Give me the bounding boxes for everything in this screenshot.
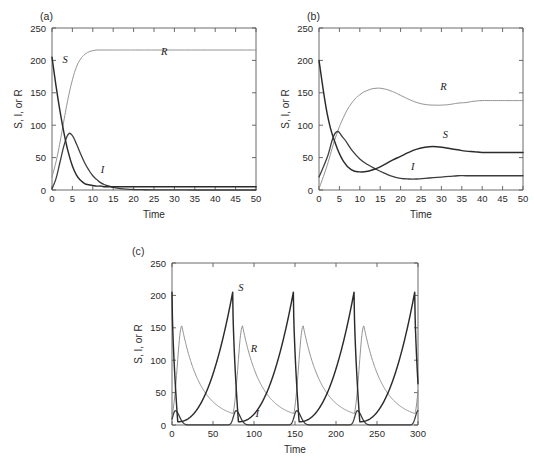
x-axis-title: Time [143, 209, 165, 220]
x-tick-label: 40 [210, 193, 221, 204]
curve-label-R: R [250, 343, 258, 354]
x-tick-label: 40 [477, 193, 488, 204]
x-tick-label: 0 [316, 193, 321, 204]
x-tick-label: 20 [128, 193, 139, 204]
y-tick-label: 100 [150, 355, 166, 366]
x-tick-label: 30 [169, 193, 180, 204]
x-tick-label: 15 [375, 193, 386, 204]
x-tick-label: 20 [395, 193, 406, 204]
x-tick-label: 30 [436, 193, 447, 204]
x-tick-label: 50 [251, 193, 262, 204]
curve-label-S: S [238, 282, 244, 293]
x-tick-label: 5 [70, 193, 75, 204]
x-tick-label: 35 [457, 193, 468, 204]
panel-b-plot: 05101520253035404550050100150200250TimeS… [267, 0, 534, 235]
y-tick-label: 0 [308, 185, 313, 196]
x-tick-label: 300 [410, 428, 426, 439]
curve-label-S: S [62, 54, 68, 65]
panel-b-letter: (b) [307, 10, 320, 22]
y-tick-label: 150 [150, 322, 166, 333]
sir-model-figure: (a) 05101520253035404550050100150200250T… [0, 0, 534, 470]
curve-label-I: I [100, 164, 105, 175]
panel-a-plot: 05101520253035404550050100150200250TimeS… [0, 0, 267, 235]
y-axis-title: S, I, or R [133, 324, 144, 363]
curve-label-I: I [255, 408, 260, 419]
x-axis-title: Time [410, 209, 432, 220]
x-tick-label: 10 [355, 193, 366, 204]
y-tick-label: 200 [297, 55, 313, 66]
x-axis-title: Time [284, 444, 306, 455]
curve-R [319, 88, 523, 189]
y-tick-label: 100 [297, 120, 313, 131]
x-tick-label: 150 [287, 428, 303, 439]
panel-a: (a) 05101520253035404550050100150200250T… [0, 0, 267, 235]
curve-label-I: I [410, 161, 415, 172]
panel-c-plot: 050100150200250300050100150200250TimeS, … [110, 235, 430, 470]
x-tick-label: 5 [337, 193, 342, 204]
x-tick-label: 10 [88, 193, 99, 204]
x-tick-label: 25 [416, 193, 427, 204]
y-tick-label: 0 [161, 420, 166, 431]
x-tick-label: 25 [149, 193, 160, 204]
x-tick-label: 0 [49, 193, 54, 204]
curve-S [52, 57, 256, 187]
y-tick-label: 100 [30, 120, 46, 131]
x-tick-label: 15 [108, 193, 119, 204]
panel-c-letter: (c) [132, 245, 145, 257]
y-tick-label: 250 [30, 23, 46, 34]
y-axis-title: S, I, or R [13, 89, 24, 128]
y-tick-label: 200 [30, 55, 46, 66]
y-tick-label: 50 [35, 152, 46, 163]
panel-b: (b) 05101520253035404550050100150200250T… [267, 0, 534, 235]
panel-a-letter: (a) [40, 10, 53, 22]
panel-c: (c) 050100150200250300050100150200250Tim… [110, 235, 430, 470]
y-tick-label: 250 [150, 258, 166, 269]
curve-label-R: R [160, 46, 168, 57]
x-tick-label: 100 [246, 428, 262, 439]
y-tick-label: 150 [30, 87, 46, 98]
y-tick-label: 200 [150, 290, 166, 301]
curve-label-R: R [439, 81, 447, 92]
x-tick-label: 50 [208, 428, 219, 439]
curve-I [319, 131, 523, 179]
x-tick-label: 50 [518, 193, 529, 204]
x-tick-label: 250 [369, 428, 385, 439]
curve-S [319, 60, 523, 172]
x-tick-label: 45 [497, 193, 508, 204]
y-tick-label: 50 [302, 152, 313, 163]
x-tick-label: 0 [169, 428, 174, 439]
y-tick-label: 50 [155, 387, 166, 398]
y-tick-label: 0 [41, 185, 46, 196]
y-axis-title: S, I, or R [280, 89, 291, 128]
x-tick-label: 35 [190, 193, 201, 204]
y-tick-label: 250 [297, 23, 313, 34]
x-tick-label: 45 [230, 193, 241, 204]
x-tick-label: 200 [328, 428, 344, 439]
y-tick-label: 150 [297, 87, 313, 98]
curve-label-S: S [443, 129, 449, 140]
